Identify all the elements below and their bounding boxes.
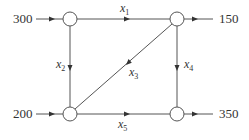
node-bottom-right bbox=[170, 107, 184, 121]
edge-label-x2: x2 bbox=[55, 57, 65, 73]
node-top-right bbox=[170, 12, 184, 26]
arrow-down-icon bbox=[68, 65, 73, 71]
edge-label-x1: x1 bbox=[119, 1, 129, 17]
edge-x3: x3 bbox=[75, 24, 172, 109]
node-bottom-left bbox=[63, 107, 77, 121]
outflow-top-right: 150 bbox=[184, 11, 239, 26]
node-top-left bbox=[63, 12, 77, 26]
edge-x2: x2 bbox=[55, 26, 73, 107]
edge-label-x5: x5 bbox=[117, 117, 127, 133]
edge-x4: x4 bbox=[175, 26, 194, 107]
arrow-right-icon bbox=[124, 17, 130, 22]
arrow-right-icon bbox=[49, 17, 55, 22]
outflow-bottom-right: 350 bbox=[184, 106, 239, 121]
flow-network-diagram: 300 150 200 350 x1 x2 x3 bbox=[0, 0, 249, 140]
arrow-right-icon bbox=[49, 112, 55, 117]
edge-label-x4: x4 bbox=[183, 57, 193, 73]
edge-x5: x5 bbox=[77, 112, 170, 134]
outflow-value-350: 350 bbox=[219, 106, 239, 121]
edge-label-x3: x3 bbox=[128, 65, 138, 81]
inflow-top-left: 300 bbox=[13, 11, 63, 26]
inflow-value-200: 200 bbox=[13, 106, 33, 121]
arrow-right-icon bbox=[124, 112, 130, 117]
edge-x1: x1 bbox=[77, 1, 170, 22]
inflow-value-300: 300 bbox=[13, 11, 33, 26]
outflow-value-150: 150 bbox=[219, 11, 239, 26]
inflow-bottom-left: 200 bbox=[13, 106, 63, 121]
arrow-right-icon bbox=[192, 112, 198, 117]
arrow-right-icon bbox=[192, 17, 198, 22]
arrow-down-icon bbox=[175, 65, 180, 71]
